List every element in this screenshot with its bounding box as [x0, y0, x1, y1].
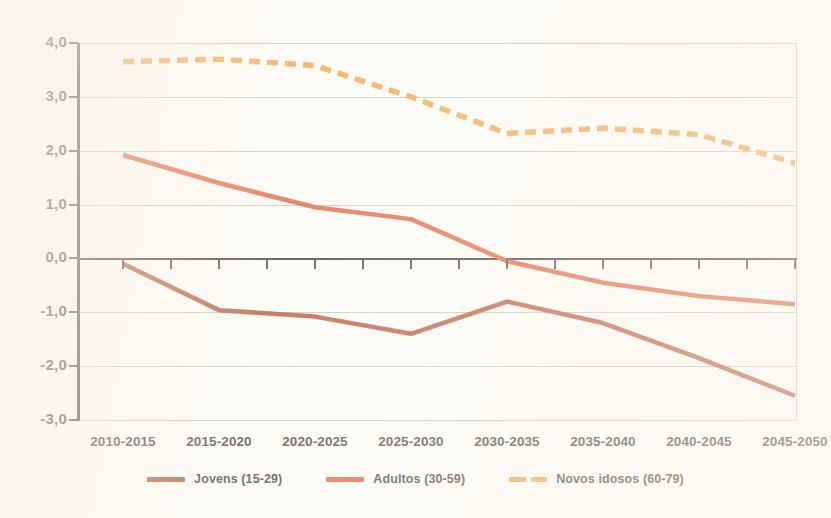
- legend-swatch: [509, 477, 547, 482]
- legend-label: Adultos (30-59): [373, 472, 465, 486]
- y-tick-mark: [69, 42, 78, 44]
- y-tick-label: -3,0: [40, 410, 67, 427]
- y-axis-labels: 4,03,02,01,00,0-1,0-2,0-3,0: [0, 0, 67, 518]
- x-tick-mark: [650, 258, 652, 269]
- chart-container: 4,03,02,01,00,0-1,0-2,0-3,0 2010-2015201…: [0, 0, 831, 518]
- x-tick-label: 2010-2015: [90, 434, 155, 449]
- y-tick-label: -1,0: [40, 302, 67, 319]
- legend-item[interactable]: Jovens (15-29): [147, 472, 282, 486]
- x-tick-label: 2030-2035: [474, 434, 539, 449]
- x-tick-mark: [170, 258, 172, 269]
- gridline: [79, 420, 797, 421]
- x-tick-mark: [266, 258, 268, 269]
- legend-item[interactable]: Adultos (30-59): [326, 472, 465, 486]
- x-tick-label: 2035-2040: [570, 434, 635, 449]
- x-tick-label: 2015-2020: [186, 434, 251, 449]
- x-tick-mark: [506, 258, 508, 269]
- legend-item[interactable]: Novos idosos (60-79): [509, 472, 684, 486]
- x-tick-mark: [122, 258, 124, 269]
- x-tick-mark: [554, 258, 556, 269]
- y-tick-mark: [69, 204, 78, 206]
- series-lines: [79, 43, 797, 420]
- x-tick-label: 2020-2025: [282, 434, 347, 449]
- y-tick-label: 3,0: [46, 87, 67, 104]
- series-line-2: [123, 59, 795, 163]
- legend-dash-segment: [509, 477, 526, 482]
- x-tick-mark: [794, 258, 796, 269]
- plot-area: [79, 43, 797, 420]
- y-tick-mark: [69, 150, 78, 152]
- chart-legend: Jovens (15-29)Adultos (30-59)Novos idoso…: [0, 472, 831, 486]
- legend-dash-segment: [531, 477, 548, 482]
- y-tick-mark: [69, 96, 78, 98]
- x-tick-mark: [362, 258, 364, 269]
- y-tick-mark: [69, 419, 78, 421]
- x-tick-mark: [698, 258, 700, 269]
- legend-swatch: [326, 477, 364, 482]
- series-line-1: [123, 155, 795, 304]
- x-tick-mark: [602, 258, 604, 269]
- y-tick-mark: [69, 257, 78, 259]
- y-tick-label: 4,0: [46, 33, 67, 50]
- y-tick-label: 1,0: [46, 195, 67, 212]
- x-tick-mark: [746, 258, 748, 269]
- x-tick-mark: [218, 258, 220, 269]
- x-tick-label: 2025-2030: [378, 434, 443, 449]
- x-tick-mark: [314, 258, 316, 269]
- y-tick-label: -2,0: [40, 356, 67, 373]
- y-tick-label: 0,0: [46, 248, 67, 265]
- y-tick-label: 2,0: [46, 141, 67, 158]
- legend-label: Novos idosos (60-79): [556, 472, 684, 486]
- y-tick-mark: [69, 365, 78, 367]
- x-tick-label: 2040-2045: [666, 434, 731, 449]
- y-tick-mark: [69, 311, 78, 313]
- legend-label: Jovens (15-29): [194, 472, 282, 486]
- legend-swatch: [147, 477, 185, 482]
- series-line-0: [123, 264, 795, 396]
- x-tick-label: 2045-2050: [762, 434, 827, 449]
- x-tick-mark: [458, 258, 460, 269]
- x-tick-mark: [410, 258, 412, 269]
